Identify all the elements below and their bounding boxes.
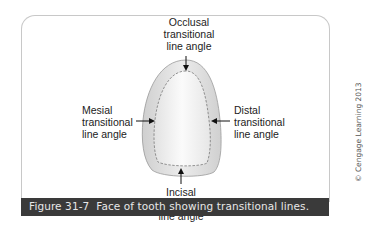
distal-label: Distal transitional line angle — [234, 104, 285, 140]
copyright-credit: © Cengage Learning 2013 — [354, 82, 363, 182]
mesial-label-line1: Mesial — [82, 104, 133, 116]
occlusal-label-line1: Occlusal — [158, 16, 220, 28]
mesial-label-line2: transitional — [82, 116, 133, 128]
mesial-label: Mesial transitional line angle — [82, 104, 133, 140]
occlusal-label-line2: transitional — [158, 28, 220, 40]
caption-number: Figure 31-7 — [29, 200, 89, 212]
distal-label-line1: Distal — [234, 104, 285, 116]
occlusal-label-line3: line angle — [158, 40, 220, 52]
distal-label-line2: transitional — [234, 116, 285, 128]
occlusal-label: Occlusal transitional line angle — [158, 16, 220, 52]
caption-text: Face of tooth showing transitional lines… — [96, 200, 309, 212]
caption-bar: Figure 31-7 Face of tooth showing transi… — [21, 198, 329, 216]
figure-caption: Figure 31-7 Face of tooth showing transi… — [29, 200, 309, 212]
mesial-label-line3: line angle — [82, 128, 133, 140]
distal-label-line3: line angle — [234, 128, 285, 140]
incisal-label-line1: Incisal — [150, 186, 212, 198]
